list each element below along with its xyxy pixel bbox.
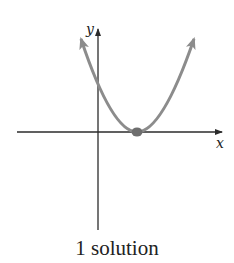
solution-point — [132, 128, 143, 137]
parabola-curve-right — [137, 39, 194, 132]
x-axis-label: x — [216, 135, 224, 151]
parabola-curve — [81, 39, 137, 132]
y-axis-label: y — [85, 21, 95, 37]
figure-caption: 1 solution — [0, 236, 234, 261]
parabola-graph: y x — [0, 0, 234, 263]
